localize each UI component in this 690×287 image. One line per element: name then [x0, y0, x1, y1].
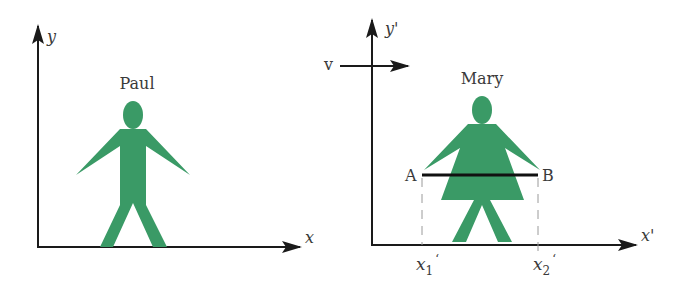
point-b-label: B [542, 166, 554, 185]
left-frame: y x Paul [37, 26, 314, 247]
y-prime-axis-label: y' [384, 19, 398, 38]
x-prime-axis-label: x' [641, 226, 654, 245]
y-axis-label: y [46, 27, 57, 46]
mary-figure-icon [424, 96, 540, 242]
right-frame: y' x' v Mary A B x1‘ x2‘ [323, 19, 654, 278]
velocity-label: v [323, 55, 333, 74]
point-a-label: A [404, 166, 417, 185]
figure-name-mary: Mary [461, 69, 504, 88]
relativity-diagram: y x Paul y' x' v Mary A B x1‘ x2‘ [0, 0, 690, 287]
x2-prime-label: x2‘ [533, 252, 556, 278]
x-axis-label: x [305, 228, 314, 247]
paul-figure-icon [76, 101, 190, 247]
x1-prime-label: x1‘ [416, 252, 439, 278]
figure-name-paul: Paul [119, 74, 154, 93]
